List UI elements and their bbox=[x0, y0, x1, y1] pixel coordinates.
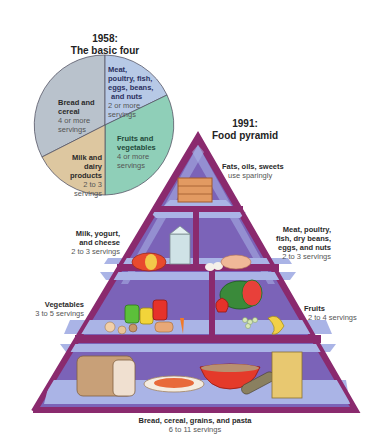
tier-label-bread: Bread, cereal, grains, and pasta 6 to 11… bbox=[120, 416, 270, 434]
milk-carton-icon bbox=[170, 234, 190, 264]
cereal-box-icon bbox=[272, 352, 302, 398]
pie-label-fruits-vegetables: Fruits and vegetables 4 or more servings bbox=[117, 134, 156, 170]
pie-label-meat: Meat, poultry, fish, eggs, beans, and nu… bbox=[108, 65, 153, 119]
segment-name-line: poultry, fish, bbox=[108, 74, 153, 83]
segment-servings-line: 2 or more bbox=[108, 101, 153, 110]
chicken-icon bbox=[221, 255, 251, 269]
tier-servings: 3 to 5 servings bbox=[28, 309, 84, 318]
segment-servings-line: 2 to 3 bbox=[62, 180, 102, 189]
segment-name-line: Milk and bbox=[62, 153, 102, 162]
segment-servings-line: servings bbox=[117, 161, 156, 170]
basic-four-pie bbox=[0, 0, 385, 448]
tier-label-fruits: Fruits 2 to 4 servings bbox=[304, 304, 357, 322]
pie-label-milk: Milk and dairy products 2 to 3 servings bbox=[62, 153, 102, 198]
segment-name-line: products bbox=[62, 171, 102, 180]
tier-name: Fruits bbox=[304, 304, 357, 313]
tier-servings: 6 to 11 servings bbox=[120, 425, 270, 434]
food-pyramid-heading: Food pyramid bbox=[205, 130, 285, 142]
segment-servings-line: 4 or more bbox=[117, 152, 156, 161]
tier-servings: use sparingly bbox=[222, 171, 284, 180]
segment-servings-line: 4 or more bbox=[58, 116, 95, 125]
sweets-icon bbox=[178, 178, 212, 202]
pie-label-bread-cereal: Bread and cereal 4 or more servings bbox=[58, 98, 95, 134]
tier-label-meat: Meat, poultry, fish, dry beans, eggs, an… bbox=[255, 225, 331, 261]
pepper-red-icon bbox=[153, 300, 167, 320]
tier-name-line: Meat, poultry, bbox=[255, 225, 331, 234]
tier-label-fats: Fats, oils, sweets use sparingly bbox=[222, 162, 284, 180]
segment-name-line: cereal bbox=[58, 107, 95, 116]
tier-name-line: and cheese bbox=[60, 238, 120, 247]
segment-servings-line: servings bbox=[62, 189, 102, 198]
segment-name-line: Meat, bbox=[108, 65, 153, 74]
tier-name: Bread, cereal, grains, and pasta bbox=[120, 416, 270, 425]
segment-name-line: eggs, beans, bbox=[108, 83, 153, 92]
tier-servings: 2 to 3 servings bbox=[255, 252, 331, 261]
tier-name: Vegetables bbox=[28, 300, 84, 309]
mushroom-icon bbox=[105, 322, 115, 332]
segment-name-line: vegetables bbox=[117, 143, 156, 152]
segment-name-line: dairy bbox=[62, 162, 102, 171]
pepper-green-icon bbox=[125, 305, 139, 323]
segment-name-line: Fruits and bbox=[117, 134, 156, 143]
segment-name-line: and nuts bbox=[108, 92, 153, 101]
segment-name-line: Bread and bbox=[58, 98, 95, 107]
potato-icon bbox=[155, 322, 173, 332]
tier-name: Fats, oils, sweets bbox=[222, 162, 284, 171]
tier-name-line: Milk, yogurt, bbox=[60, 229, 120, 238]
tier-label-vegetables: Vegetables 3 to 5 servings bbox=[28, 300, 84, 318]
tier-label-milk: Milk, yogurt, and cheese 2 to 3 servings bbox=[60, 229, 120, 256]
segment-servings-line: servings bbox=[108, 110, 153, 119]
tier-servings: 2 to 4 servings bbox=[304, 313, 357, 322]
food-pyramid-title: 1991: Food pyramid bbox=[205, 118, 285, 142]
food-pyramid-year: 1991: bbox=[205, 118, 285, 130]
grapes-icon bbox=[243, 318, 248, 323]
tier-name-line: fish, dry beans, bbox=[255, 234, 331, 243]
segment-servings-line: servings bbox=[58, 125, 95, 134]
tier-servings: 2 to 3 servings bbox=[60, 247, 120, 256]
tier-name-line: eggs, and nuts bbox=[255, 243, 331, 252]
